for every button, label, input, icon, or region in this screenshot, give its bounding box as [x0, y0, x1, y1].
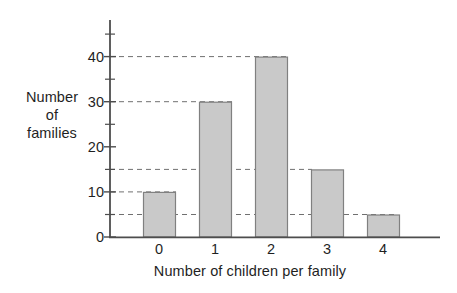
gridlines: [110, 57, 396, 215]
bar-2: [256, 57, 288, 237]
bar-chart: Number of families 0 10 20 30 40 0 1 2 3…: [0, 0, 457, 293]
plot-area: [0, 0, 457, 293]
bars: [144, 57, 400, 237]
bar-4: [368, 215, 400, 237]
bar-3: [312, 170, 344, 237]
bar-0: [144, 192, 176, 237]
bar-1: [200, 102, 232, 237]
